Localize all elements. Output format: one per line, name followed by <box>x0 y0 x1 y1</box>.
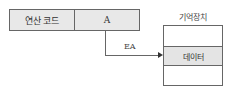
memory-title: 기억장치 <box>163 11 223 22</box>
address-field: A <box>75 10 139 30</box>
instruction-format: 연산 코드 A <box>9 9 140 31</box>
connector-horizontal-line <box>105 55 159 56</box>
opcode-field: 연산 코드 <box>10 10 75 30</box>
connector-vertical-line <box>105 31 106 55</box>
memory-block: 데이터 <box>163 25 223 86</box>
effective-address-label: EA <box>124 42 136 51</box>
memory-data-cell: 데이터 <box>164 46 222 66</box>
